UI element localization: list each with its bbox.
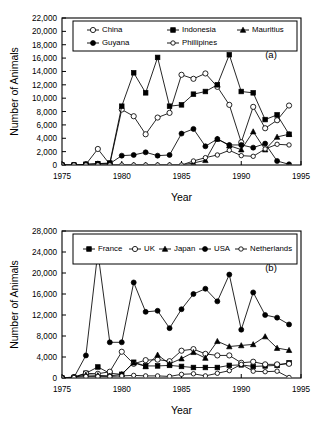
x-tick-label: 1980 xyxy=(113,385,132,394)
data-point-indonesia xyxy=(203,89,208,94)
x-axis-title: Year xyxy=(171,404,193,416)
data-point-france xyxy=(251,364,256,369)
data-point-usa xyxy=(107,340,112,345)
data-point-netherlands xyxy=(251,369,255,373)
legend-marker-glyph xyxy=(171,28,176,33)
data-point-phillipines xyxy=(215,153,219,157)
y-tick-label: 4,000 xyxy=(37,353,58,362)
data-point-indonesia xyxy=(239,89,244,94)
data-point-netherlands xyxy=(191,372,195,376)
y-tick-label: 8,000 xyxy=(37,332,58,341)
data-point-guyana xyxy=(179,131,184,136)
x-tick-label: 1980 xyxy=(113,172,132,181)
data-point-indonesia xyxy=(119,104,124,109)
series-line-usa xyxy=(62,252,289,378)
data-point-phillipines xyxy=(191,159,195,163)
y-tick-label: 20,000 xyxy=(32,269,57,278)
data-point-china xyxy=(263,126,268,131)
legend-label-guyana: Guyana xyxy=(102,38,130,47)
data-point-uk xyxy=(119,349,124,354)
data-point-usa xyxy=(179,307,184,312)
y-tick-label: 20,000 xyxy=(32,27,57,36)
legend-label-japan: Japan xyxy=(174,244,195,253)
data-point-usa xyxy=(263,313,268,318)
data-point-usa xyxy=(239,327,244,332)
data-point-uk xyxy=(179,348,184,353)
y-tick-label: 22,000 xyxy=(32,14,57,23)
legend-label-mauritius: Mauritius xyxy=(252,25,284,34)
data-point-phillipines xyxy=(287,143,291,147)
legend-marker-glyph xyxy=(91,41,96,46)
data-point-uk xyxy=(227,353,232,358)
data-point-china xyxy=(191,76,196,81)
x-tick-label: 1995 xyxy=(292,172,311,181)
data-point-netherlands xyxy=(215,371,219,375)
data-point-usa xyxy=(191,292,196,297)
data-point-guyana xyxy=(143,150,148,155)
series-mauritius xyxy=(59,129,291,168)
data-point-guyana xyxy=(167,152,172,157)
data-point-guyana xyxy=(239,142,244,147)
data-point-uk xyxy=(143,358,148,363)
data-point-france xyxy=(215,365,220,370)
legend-label-usa: USA xyxy=(214,244,231,253)
series-layer xyxy=(59,52,291,167)
data-point-usa xyxy=(215,299,220,304)
data-point-guyana xyxy=(275,158,280,163)
x-axis: 19751980198519901995 xyxy=(53,374,311,394)
y-tick-label: 0 xyxy=(52,161,57,170)
series-guyana xyxy=(60,126,292,167)
chart-panel-a: 02,0004,0006,0008,00010,00012,00014,0001… xyxy=(0,0,318,213)
data-point-japan xyxy=(215,338,220,343)
y-tick-label: 24,000 xyxy=(32,248,57,257)
legend-label-china: China xyxy=(102,25,123,34)
data-point-mauritius xyxy=(251,129,256,134)
data-point-uk xyxy=(286,361,291,366)
legend-label-netherlands: Netherlands xyxy=(250,244,292,253)
data-point-uk xyxy=(263,362,268,367)
x-tick-label: 1990 xyxy=(232,385,251,394)
data-point-usa xyxy=(251,290,256,295)
y-axis: 02,0004,0006,0008,00010,00012,00014,0001… xyxy=(32,14,66,170)
legend-marker-glyph xyxy=(87,247,92,252)
legend-label-phillipines: Phillipines xyxy=(182,38,217,47)
data-point-france xyxy=(155,364,160,369)
legend-marker-glyph xyxy=(239,247,243,251)
data-point-netherlands xyxy=(179,372,183,376)
y-axis: 04,0008,00012,00016,00020,00024,00028,00… xyxy=(32,227,66,383)
y-tick-label: 6,000 xyxy=(37,121,58,130)
chart-panel-b: 04,0008,00012,00016,00020,00024,00028,00… xyxy=(0,213,318,426)
y-tick-label: 0 xyxy=(52,374,57,383)
data-point-usa xyxy=(143,309,148,314)
data-point-netherlands xyxy=(203,374,207,378)
series-france xyxy=(60,360,292,380)
y-tick-label: 10,000 xyxy=(32,94,57,103)
data-point-usa xyxy=(227,272,232,277)
series-indonesia xyxy=(60,52,292,167)
data-point-phillipines xyxy=(251,154,255,158)
data-point-china xyxy=(131,114,136,119)
data-point-uk xyxy=(251,359,256,364)
data-point-indonesia xyxy=(263,117,268,122)
data-point-netherlands xyxy=(263,370,267,374)
data-point-france xyxy=(203,365,208,370)
data-point-france xyxy=(96,365,101,370)
data-point-indonesia xyxy=(251,91,256,96)
figure-container: 02,0004,0006,0008,00010,00012,00014,0001… xyxy=(0,0,318,426)
y-tick-label: 8,000 xyxy=(37,108,58,117)
y-tick-label: 12,000 xyxy=(32,311,57,320)
data-point-usa xyxy=(167,326,172,331)
data-point-netherlands xyxy=(239,362,243,366)
data-point-indonesia xyxy=(143,91,148,96)
data-point-netherlands xyxy=(227,368,231,372)
data-point-china xyxy=(155,115,160,120)
legend-marker-glyph xyxy=(171,41,175,45)
data-point-phillipines xyxy=(227,148,231,152)
data-point-indonesia xyxy=(191,92,196,97)
data-point-japan xyxy=(155,352,160,357)
data-point-netherlands xyxy=(287,375,291,379)
data-point-usa xyxy=(155,308,160,313)
chart-svg-a: 02,0004,0006,0008,00010,00012,00014,0001… xyxy=(0,0,318,213)
x-tick-label: 1985 xyxy=(172,172,191,181)
y-tick-label: 18,000 xyxy=(32,41,57,50)
